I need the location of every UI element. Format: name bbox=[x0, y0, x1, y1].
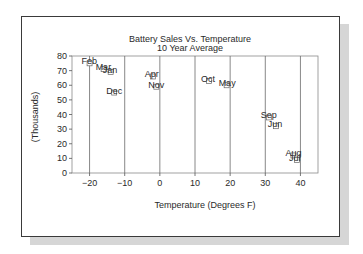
x-axis-label: Temperature (Degrees F) bbox=[154, 200, 255, 210]
y-tick-label: 10 bbox=[57, 153, 67, 163]
y-tick-label: 80 bbox=[57, 51, 67, 61]
data-point-label: May bbox=[219, 78, 237, 88]
data-point-label: Jan bbox=[103, 65, 118, 75]
y-tick-label: 40 bbox=[57, 110, 67, 120]
y-tick-label: 70 bbox=[57, 66, 67, 76]
y-tick-label: 0 bbox=[62, 168, 67, 178]
data-point-label: Nov bbox=[148, 80, 165, 90]
data-point-label: Dec bbox=[106, 86, 123, 96]
data-point-label: Apr bbox=[145, 69, 159, 79]
x-tick-label: −20 bbox=[82, 178, 97, 188]
x-tick-label: 0 bbox=[157, 178, 162, 188]
x-tick-label: 20 bbox=[225, 178, 235, 188]
y-axis-label: (Thousands) bbox=[30, 92, 40, 143]
x-tick-label: 10 bbox=[190, 178, 200, 188]
data-point-label: Oct bbox=[201, 74, 216, 84]
x-tick-label: −10 bbox=[117, 178, 132, 188]
y-tick-label: 60 bbox=[57, 80, 67, 90]
y-tick-label: 50 bbox=[57, 95, 67, 105]
data-point-label: Jun bbox=[268, 119, 283, 129]
x-tick-label: 40 bbox=[295, 178, 305, 188]
plot-area: −20−1001020304001020304050607080FebMarJa… bbox=[57, 51, 318, 188]
y-tick-label: 20 bbox=[57, 139, 67, 149]
scatter-chart: Battery Sales Vs. Temperature 10 Year Av… bbox=[0, 0, 363, 254]
data-point-label: Jul bbox=[289, 153, 301, 163]
x-tick-label: 30 bbox=[260, 178, 270, 188]
chart-subtitle: 10 Year Average bbox=[157, 43, 223, 53]
y-tick-label: 30 bbox=[57, 124, 67, 134]
